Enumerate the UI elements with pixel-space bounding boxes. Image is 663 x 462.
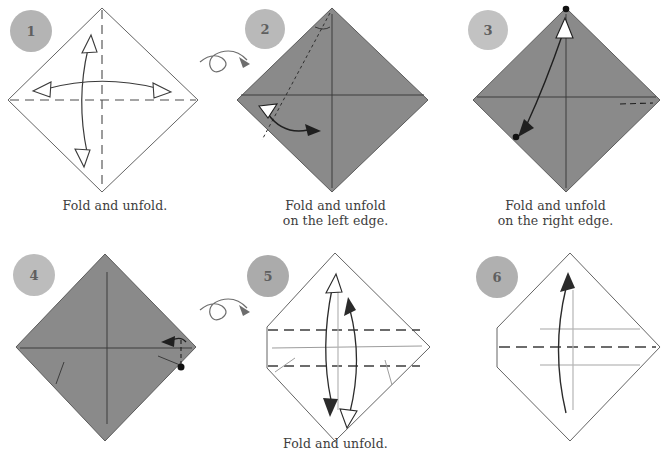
origami-diagram-canvas: 1 2 [0,0,663,462]
step-3-figure: 3 [468,6,660,192]
step-5-caption: Fold and unfold. [228,436,443,451]
step-2-figure: 2 [237,8,428,192]
step-1-number: 1 [26,24,35,39]
step-3-marker-dot-left [513,134,520,141]
step-6-number: 6 [492,270,501,285]
step-3-number: 3 [483,23,492,38]
turn-over-icon-1 [200,51,250,72]
step-2-number: 2 [260,22,269,37]
step-3-marker-dot-top [563,6,570,13]
step-1-caption: Fold and unfold. [0,198,230,213]
turn-over-icon-2 [200,299,250,320]
step-6-figure: 6 [476,253,660,441]
step-5-figure: 5 [247,253,430,441]
step-2-caption: Fold and unfold on the left edge. [228,198,443,228]
step-4-marker-dot-right [178,364,185,371]
step-3-caption: Fold and unfold on the right edge. [448,198,663,228]
step-4-figure: 4 [13,254,196,441]
step-5-number: 5 [263,269,272,284]
step-4-number: 4 [29,268,38,283]
origami-diagram-root: 1 2 [0,0,663,462]
step-1-figure: 1 [8,8,198,192]
